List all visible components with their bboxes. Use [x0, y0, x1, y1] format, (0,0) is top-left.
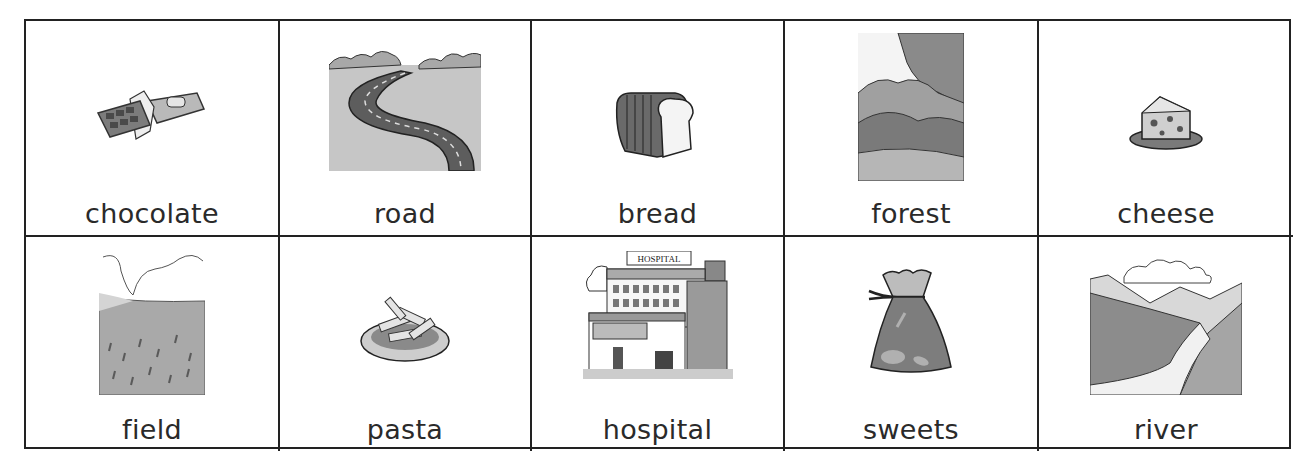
card-chocolate: chocolate	[26, 21, 280, 237]
card-cheese: cheese	[1039, 21, 1293, 237]
word-label: road	[280, 198, 530, 229]
hospital-building-icon: HOSPITAL	[583, 251, 733, 381]
card-bread: bread	[532, 21, 785, 237]
pasta-plate-icon	[359, 287, 451, 363]
card-hospital: HOSPITAL hospital	[532, 237, 785, 451]
card-road: road	[280, 21, 532, 237]
word-label: chocolate	[26, 198, 278, 229]
card-forest: forest	[785, 21, 1039, 237]
word-label: forest	[785, 198, 1037, 229]
field-icon	[99, 251, 205, 395]
svg-text:HOSPITAL: HOSPITAL	[637, 254, 680, 264]
vocabulary-card-grid: chocolate road bread	[24, 19, 1291, 449]
card-river: river	[1039, 237, 1293, 451]
river-valley-icon	[1090, 253, 1242, 395]
winding-road-icon	[329, 43, 481, 171]
chocolate-bar-icon	[92, 81, 212, 151]
card-pasta: pasta	[280, 237, 532, 451]
word-label: field	[26, 414, 278, 445]
forest-icon	[858, 33, 964, 181]
cheese-icon	[1126, 93, 1206, 153]
word-label: hospital	[532, 414, 783, 445]
cropped-instruction-text	[0, 0, 1312, 4]
sweets-bag-icon	[861, 267, 961, 379]
card-sweets: sweets	[785, 237, 1039, 451]
word-label: sweets	[785, 414, 1037, 445]
word-label: river	[1039, 414, 1293, 445]
bread-loaf-icon	[613, 91, 703, 161]
card-field: field	[26, 237, 280, 451]
word-label: pasta	[280, 414, 530, 445]
word-label: bread	[532, 198, 783, 229]
word-label: cheese	[1039, 198, 1293, 229]
